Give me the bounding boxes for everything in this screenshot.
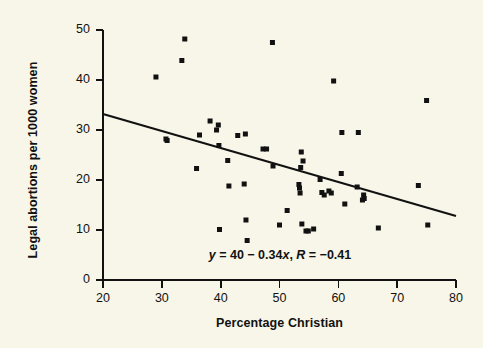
data-point-marker <box>242 182 247 187</box>
y-tick-marks <box>96 30 103 280</box>
data-point-marker <box>298 191 303 196</box>
y-axis-label: Legal abortions per 1000 women <box>26 30 40 290</box>
y-tick-label: 0 <box>56 272 90 286</box>
data-point-marker <box>179 58 184 63</box>
y-tick-label: 40 <box>56 72 90 86</box>
equation-y-symbol: y <box>209 248 216 262</box>
data-point-marker <box>216 143 221 148</box>
data-point-marker <box>342 202 347 207</box>
data-point-marker <box>216 123 221 128</box>
x-tick-label: 50 <box>260 291 300 305</box>
x-tick-label: 60 <box>318 291 358 305</box>
regression-line <box>103 114 456 216</box>
data-point-marker <box>235 133 240 138</box>
data-point-marker <box>416 183 421 188</box>
data-point-marker <box>299 222 304 227</box>
data-point-marker <box>285 208 290 213</box>
x-tick-label: 30 <box>142 291 182 305</box>
data-point-marker <box>339 130 344 135</box>
data-point-marker <box>356 130 361 135</box>
data-point-marker <box>271 164 276 169</box>
data-point-marker <box>298 165 303 170</box>
x-tick-marks <box>103 280 456 288</box>
x-tick-label: 40 <box>201 291 241 305</box>
data-point-marker <box>225 158 230 163</box>
axes-group <box>103 30 456 280</box>
data-point-marker <box>301 159 306 164</box>
data-point-marker <box>318 177 323 182</box>
data-point-marker <box>270 40 275 45</box>
data-point-marker <box>243 218 248 223</box>
data-point-marker <box>311 227 316 232</box>
data-point-marker <box>306 229 311 234</box>
data-point-marker <box>243 132 248 137</box>
y-tick-label: 30 <box>56 122 90 136</box>
data-point-marker <box>339 171 344 176</box>
data-point-marker <box>197 133 202 138</box>
data-point-marker <box>297 186 302 191</box>
equation-body: = 40 − 0.34 <box>216 248 283 262</box>
x-tick-label: 20 <box>83 291 123 305</box>
equation-tail: = −0.41 <box>305 248 351 262</box>
data-point-marker <box>208 119 213 124</box>
x-axis-label: Percentage Christian <box>103 316 456 330</box>
data-point-marker <box>329 191 334 196</box>
data-point-marker <box>165 138 170 143</box>
data-point-marker <box>264 147 269 152</box>
y-tick-label: 50 <box>56 22 90 36</box>
data-point-marker <box>355 185 360 190</box>
data-point-marker <box>245 238 250 243</box>
data-point-marker <box>362 196 367 201</box>
regression-line-segment <box>103 114 456 216</box>
data-point-marker <box>322 193 327 198</box>
scatter-plot-figure: Legal abortions per 1000 women Percentag… <box>0 0 483 348</box>
data-point-marker <box>331 79 336 84</box>
x-tick-label: 70 <box>377 291 417 305</box>
data-point-marker <box>226 184 231 189</box>
data-point-marker <box>194 166 199 171</box>
regression-equation-annotation: y = 40 − 0.34x, R = −0.41 <box>185 248 375 262</box>
data-point-marker <box>376 226 381 231</box>
data-point-marker <box>425 223 430 228</box>
y-tick-label: 20 <box>56 172 90 186</box>
data-point-marker <box>153 75 158 80</box>
x-tick-label: 80 <box>436 291 476 305</box>
data-point-marker <box>424 98 429 103</box>
data-point-marker <box>217 227 222 232</box>
data-point-marker <box>182 37 187 42</box>
data-point-marker <box>214 128 219 133</box>
y-tick-label: 10 <box>56 222 90 236</box>
data-point-marker <box>299 150 304 155</box>
data-point-marker <box>277 223 282 228</box>
